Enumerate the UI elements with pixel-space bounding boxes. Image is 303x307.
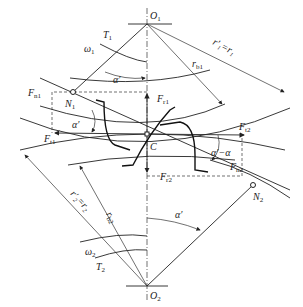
label-c: C <box>150 141 157 152</box>
tooth-left <box>96 100 130 150</box>
label-alpha-top: α′ <box>113 74 121 85</box>
label-r1: r′₁=r₁ <box>211 36 237 57</box>
label-n1: N1 <box>64 98 76 111</box>
ft2-arrow <box>147 134 244 135</box>
label-omega2: ω2 <box>85 246 96 259</box>
label-fn2: Fn2 <box>229 161 244 174</box>
alpha-top-arc <box>105 72 145 78</box>
label-t2: T2 <box>96 261 106 274</box>
r2-line <box>25 155 147 286</box>
label-alpha-bottom: α′ <box>175 209 183 220</box>
label-fn1: Fn1 <box>27 87 42 100</box>
label-t1: T1 <box>103 29 113 42</box>
label-r2: r′₂=r₂ <box>69 188 93 213</box>
pitch-circle-1 <box>20 108 290 142</box>
point-n2 <box>251 183 256 188</box>
point-n1 <box>71 90 76 95</box>
alpha-left-arc <box>92 110 95 132</box>
base-circle-2 <box>68 156 235 165</box>
label-rb1: rb1 <box>192 58 203 71</box>
r1-line <box>147 24 284 92</box>
gear-force-diagram: O1 O2 C N1 N2 T1 T2 ω1 ω2 α′ α′ α′ α′−α … <box>0 0 303 307</box>
rb2-line <box>80 166 147 286</box>
label-alpha-diff: α′−α <box>211 147 231 158</box>
label-ft2: Ft2 <box>238 121 251 134</box>
omega2-arc <box>80 235 147 242</box>
label-n2: N2 <box>252 191 264 204</box>
alpha-bottom-arc <box>147 218 200 230</box>
t2-arc <box>95 250 147 258</box>
label-alpha-left: α′ <box>72 119 80 130</box>
label-rb2: rb2 <box>103 210 120 226</box>
rb1-line <box>147 24 222 104</box>
point-c <box>145 132 149 136</box>
label-omega1: ω1 <box>84 43 95 56</box>
label-fr2: Fr2 <box>159 171 172 184</box>
label-o2: O2 <box>150 290 161 303</box>
o2-n2 <box>147 185 253 286</box>
addendum-arc <box>210 160 290 198</box>
label-o1: O1 <box>150 10 161 23</box>
t1-arc <box>100 44 147 62</box>
tooth-right <box>160 122 208 172</box>
label-fr1: Fr1 <box>156 93 169 106</box>
